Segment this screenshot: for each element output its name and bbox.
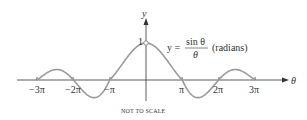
x-axis-arrow-icon [282,78,289,83]
tick-label-3pi: 3π [249,84,259,95]
sinc-chart: −3π −2π −π π 2π 3π 1 y θ y = sin θ θ (ra… [0,0,307,120]
svg-text:(radians): (radians) [212,42,248,54]
svg-text:y =: y = [167,42,181,53]
tick-label-negpi: −π [104,84,115,95]
tick-label-neg2pi: −2π [65,84,81,95]
y-axis-label: y [141,8,147,19]
svg-text:sin θ: sin θ [186,36,205,47]
tick-label-pi: π [179,84,184,95]
equation-label: y = sin θ θ (radians) [167,36,248,60]
x-axis-label: θ [291,75,296,86]
svg-text:θ: θ [193,49,198,60]
not-to-scale-note: NOT TO SCALE [121,108,166,114]
y-tick-label-1: 1 [138,36,143,47]
tick-label-2pi: 2π [213,84,223,95]
open-point [144,41,148,45]
y-axis-arrow-icon [144,18,149,25]
tick-label-neg3pi: −3π [29,84,45,95]
